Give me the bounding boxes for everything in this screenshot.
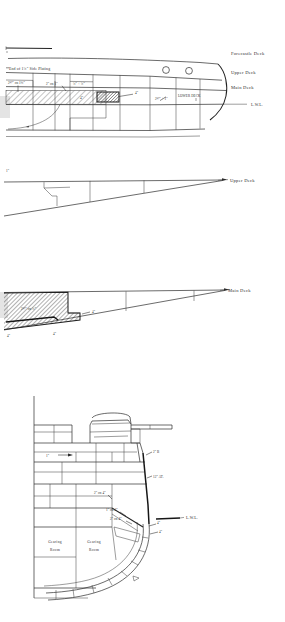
room-label-left-line1: Gearing: [48, 540, 62, 544]
callout-belt-upper: 2" B: [153, 450, 160, 454]
bilge-cell-divider: [131, 561, 138, 565]
callout-slope-a: 2" on 4": [94, 491, 106, 495]
porthole-icon: [163, 67, 170, 74]
callout-belt-main: 12" AT.: [153, 475, 164, 479]
lwl-leader: [180, 517, 184, 518]
label-forecastle-deck: Forecastle Deck: [231, 51, 265, 56]
label-lower-deck: LOWER DECK: [178, 94, 201, 98]
inner-bottom-step: [70, 105, 106, 119]
callout-belt-f: 2½" + 1": [155, 97, 168, 101]
label-lwl: L.W.L.: [251, 103, 263, 107]
bow-profile-section: 2½" on 1¼" 2" on 1" ¾" + ¾" 4" 4" 2½" + …: [0, 46, 265, 137]
callout-belt-c: ¾" + ¾": [73, 82, 85, 86]
block-callout-leader: [119, 94, 133, 96]
callout-block-d: 4": [135, 91, 139, 95]
callout-belt-b: 2" on 1": [46, 82, 58, 86]
label-upper-deck: Upper Deck: [230, 178, 255, 183]
bulkhead-line: [112, 527, 116, 560]
upper-deck-sheer: [140, 443, 143, 453]
callout-edge-left: 4": [7, 334, 11, 338]
bilge-a-leader: [149, 524, 156, 526]
bilge-curve-third: [44, 522, 137, 586]
main-deck-armour-hatch: [4, 292, 80, 329]
belt-b-leader: [62, 86, 66, 91]
room-label-right-line2: Room: [89, 548, 99, 552]
label-lwl: L.W.L.: [186, 516, 198, 520]
main-deck-line: [6, 87, 226, 91]
forecastle-deck-line: [8, 58, 218, 64]
keel-line-lower: [6, 136, 200, 137]
room-label-left-line2: Room: [50, 548, 60, 552]
upper-side-shell: [137, 443, 140, 462]
label-upper-deck: Upper Deck: [231, 70, 256, 75]
bilge-b-leader: [150, 532, 158, 534]
callout-edge-mid: 4": [53, 332, 57, 336]
bilge-curve-outer: [48, 524, 149, 600]
label-main-deck: Main Deck: [228, 288, 251, 293]
deck-centreline: [4, 180, 222, 182]
belt-upper-leader: [146, 452, 152, 455]
armour-belt-hatch: [6, 91, 106, 105]
callout-patch-line1: 2½" on ¾": [21, 307, 37, 311]
armour-block-hatch: [97, 92, 119, 102]
bilge-curve-inner: [46, 524, 143, 593]
side-armour-belt: [143, 453, 149, 524]
deck-step-edge: [44, 187, 70, 188]
turret-roof-line: [92, 423, 130, 424]
main-deck-plan: 2½" on ¾" 4" 4" 4" Main Deck: [0, 288, 251, 339]
drawing-sheet: 2½" on 1¼" 2" on 1" ¾" + ¾" 4" 4" 2½" + …: [0, 0, 285, 622]
turret-base-line: [94, 436, 128, 437]
drawing-canvas: 2½" on 1¼" 2" on 1" ¾" + ¾" 4" 4" 2½" + …: [0, 0, 285, 622]
bow-stem-curve: [210, 64, 227, 120]
upper-deck-line: [6, 73, 222, 81]
room-label-right-line1: Gearing: [87, 540, 101, 544]
slope-a-leader: [108, 495, 112, 499]
callout-bilge-b: 4": [159, 530, 163, 534]
gun-barrel: [131, 425, 172, 429]
turret-gunhouse-top: [92, 413, 131, 424]
deck-tip-arrow: [222, 178, 227, 181]
callout-plate-thickness: 1": [6, 169, 10, 173]
turret-sponson: [131, 429, 140, 443]
datum-triangle: [133, 576, 139, 581]
armour-wedge: [114, 527, 140, 542]
callout-block-e: 4": [80, 96, 84, 100]
callout-belt-a: 2½" on 1¼": [8, 81, 25, 85]
deck-step-notch: [44, 182, 57, 206]
callout-bilge-a: 4": [157, 521, 161, 525]
midship-turret-section: 1" 2" B 12" AT. 2" on 4" 1" on 4" 2" on …: [34, 396, 198, 600]
callout-slope-b: 1" on 4": [106, 508, 118, 512]
note-end-plating: End of 1¾" Side Plating: [9, 67, 50, 71]
turret-band-line: [90, 431, 131, 432]
bilge-cell-divider: [121, 571, 127, 576]
callout-edge-right: 4": [92, 310, 96, 314]
patch-edge-leader: [82, 312, 90, 314]
deck-plate-arrow: [68, 454, 73, 457]
callout-slope-c: 2" on 4": [110, 517, 122, 521]
label-main-deck: Main Deck: [231, 85, 254, 90]
scale-bar: [6, 46, 52, 52]
keel-line-upper: [6, 129, 205, 131]
lwl-marker: [156, 518, 180, 519]
bilge-curve: [8, 105, 60, 129]
belt-main-leader: [147, 476, 152, 478]
porthole-icon: [186, 67, 193, 74]
upper-deck-plan: 1" Upper Deck: [4, 169, 255, 216]
callout-deck-plate: 1": [46, 454, 50, 458]
deck-side-edge: [4, 181, 222, 216]
